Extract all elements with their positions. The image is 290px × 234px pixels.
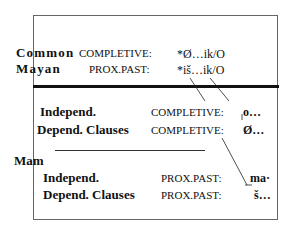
line-ik-to-o [210, 78, 229, 101]
derivation-lines [0, 0, 290, 234]
line-completive-to-ma [222, 138, 247, 185]
line-is-to-o [190, 78, 205, 101]
